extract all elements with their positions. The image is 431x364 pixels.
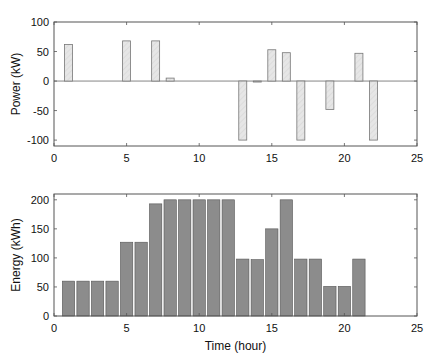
bar: [222, 200, 234, 316]
bar: [326, 81, 334, 109]
x-tick-label: 10: [193, 322, 205, 334]
bar: [295, 259, 307, 316]
bar: [282, 53, 290, 81]
x-tick-label: 5: [124, 322, 130, 334]
y-tick-label: -50: [33, 105, 49, 117]
y-tick-label: 0: [43, 75, 49, 87]
bar: [91, 281, 103, 316]
bar: [123, 41, 131, 81]
bar: [166, 78, 174, 81]
x-axis-title: Time (hour): [205, 339, 267, 353]
y-tick-label: 0: [43, 310, 49, 322]
bar: [152, 41, 160, 81]
bar: [266, 229, 278, 316]
bar: [106, 281, 118, 316]
bar: [369, 81, 377, 140]
y-tick-label: 200: [31, 194, 49, 206]
chart-figure: 0510152025-100-50050100Power (kW)0510152…: [0, 0, 431, 364]
bar: [353, 259, 365, 316]
y-tick-label: 50: [37, 281, 49, 293]
bar: [77, 281, 89, 316]
bar: [355, 53, 363, 81]
bar: [65, 44, 73, 81]
y-tick-label: -100: [27, 134, 49, 146]
bar-series: [65, 41, 378, 140]
y-tick-label: 150: [31, 223, 49, 235]
bar: [297, 81, 305, 140]
y-tick-label: 50: [37, 46, 49, 58]
x-tick-label: 20: [338, 152, 350, 164]
bar: [309, 259, 321, 316]
x-tick-label: 25: [411, 152, 423, 164]
bar: [268, 50, 276, 81]
bar: [149, 204, 161, 316]
bar: [135, 242, 147, 316]
x-tick-label: 15: [266, 152, 278, 164]
bar: [280, 200, 292, 316]
bar: [164, 200, 176, 316]
bar: [62, 281, 74, 316]
x-tick-label: 25: [411, 322, 423, 334]
x-axis: 0510152025: [51, 22, 423, 164]
plot-frame: [54, 22, 417, 146]
bar: [208, 200, 220, 316]
bar: [179, 200, 191, 316]
y-axis-title: Power (kW): [9, 53, 23, 116]
x-tick-label: 5: [124, 152, 130, 164]
bar: [120, 242, 132, 316]
bar: [253, 81, 261, 82]
x-tick-label: 0: [51, 152, 57, 164]
y-tick-label: 100: [31, 252, 49, 264]
power-chart: 0510152025-100-50050100Power (kW): [9, 16, 423, 164]
bar: [193, 200, 205, 316]
x-tick-label: 0: [51, 322, 57, 334]
bar: [338, 286, 350, 316]
bar: [324, 286, 336, 316]
bar: [239, 81, 247, 140]
bar: [237, 259, 249, 316]
x-tick-label: 10: [193, 152, 205, 164]
y-tick-label: 100: [31, 16, 49, 28]
y-axis-title: Energy (kWh): [9, 218, 23, 291]
x-tick-label: 20: [338, 322, 350, 334]
energy-chart: 0510152025050100150200Energy (kWh)Time (…: [9, 194, 423, 353]
x-tick-label: 15: [266, 322, 278, 334]
bar-series: [62, 200, 365, 316]
bar: [251, 260, 263, 316]
